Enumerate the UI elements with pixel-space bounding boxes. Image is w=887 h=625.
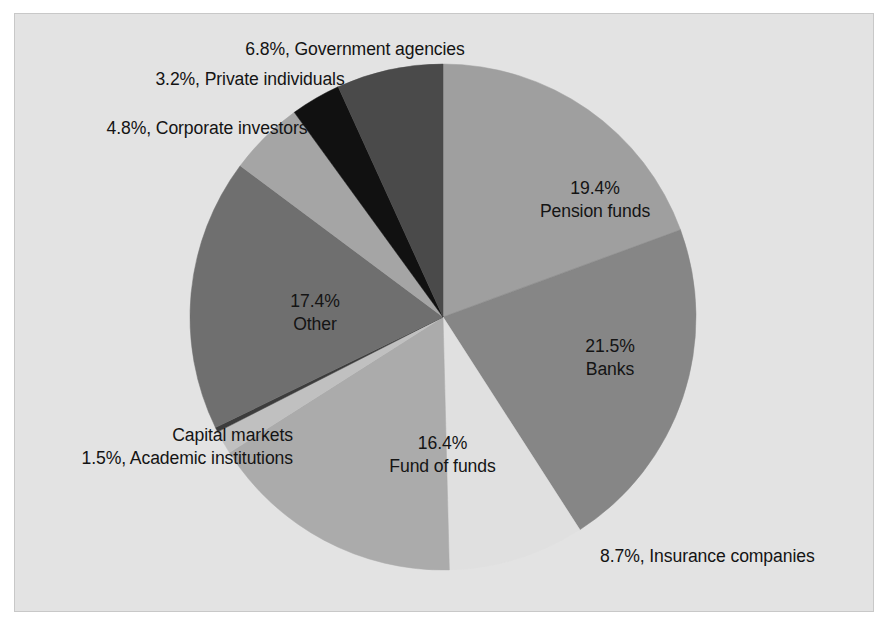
slice-label-private-individuals: 3.2%, Private individuals (100, 68, 400, 91)
slice-label-government-agencies: 6.8%, Government agencies (205, 38, 505, 61)
slice-label-pension-funds: 19.4% Pension funds (510, 177, 680, 223)
slice-label-academic-institutions: 1.5%, Academic institutions (13, 447, 293, 470)
slice-label-fund-of-funds: 16.4% Fund of funds (355, 432, 530, 478)
slice-name-fund-of-funds: Fund of funds (355, 455, 530, 478)
slice-name-pension-funds: Pension funds (510, 200, 680, 223)
slice-percent-pension-funds: 19.4% (510, 177, 680, 200)
plot-frame (14, 13, 874, 612)
slice-percent-banks: 21.5% (545, 335, 675, 358)
pie-chart-figure: 6.8%, Government agencies 3.2%, Private … (0, 0, 887, 625)
slice-label-banks: 21.5% Banks (545, 335, 675, 381)
slice-label-corporate-investors: 4.8%, Corporate investors (57, 117, 357, 140)
slice-label-insurance-companies: 8.7%, Insurance companies (600, 545, 870, 568)
slice-label-other: 17.4% Other (250, 290, 380, 336)
slice-name-banks: Banks (545, 358, 675, 381)
slice-label-capital-markets: Capital markets (13, 424, 293, 447)
slice-name-other: Other (250, 313, 380, 336)
slice-percent-other: 17.4% (250, 290, 380, 313)
slice-percent-fund-of-funds: 16.4% (355, 432, 530, 455)
